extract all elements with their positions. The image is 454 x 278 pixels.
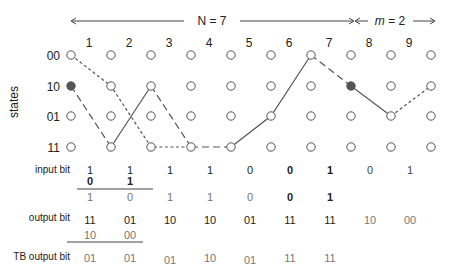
tb-output-bit: 01 — [84, 252, 96, 264]
decoded-bit: 1 — [167, 191, 173, 203]
column-number: 3 — [166, 36, 173, 50]
input-bit-label: input bit — [35, 164, 70, 175]
output-bit: 01 — [124, 214, 136, 226]
output-bit: 11 — [324, 214, 335, 226]
trellis-node — [347, 112, 355, 120]
input-bit: 0 — [367, 164, 373, 176]
trellis-node — [67, 112, 75, 120]
trellis-node-filled — [347, 82, 355, 90]
output-bit: 01 — [244, 214, 256, 226]
column-number: 2 — [126, 36, 133, 50]
trellis-node — [347, 51, 355, 59]
n-label: N = 7 — [197, 14, 226, 28]
tb-output-bit: 01 — [244, 254, 256, 266]
trellis-node — [187, 82, 195, 90]
trellis-node — [307, 82, 315, 90]
input-bit: 1 — [167, 164, 173, 176]
tb-output-bit: 01 — [124, 252, 136, 264]
trellis-node — [387, 51, 395, 59]
trellis-node — [107, 82, 115, 90]
trellis-node — [187, 51, 195, 59]
trellis-node — [307, 112, 315, 120]
column-number: 7 — [326, 36, 333, 50]
tb-output-bit: 11 — [324, 252, 335, 264]
output-bit: 11 — [284, 214, 295, 226]
input-bit: 0 — [287, 164, 293, 176]
trellis-node — [227, 51, 235, 59]
output-bit-extra: 00 — [124, 229, 136, 241]
trellis-node — [427, 112, 435, 120]
input-bit: 1 — [327, 164, 333, 176]
trellis-node — [307, 51, 315, 59]
trellis-node — [387, 143, 395, 151]
decoded-bit: 0 — [247, 191, 253, 203]
decoded-bit: 0 — [127, 191, 133, 203]
column-number: 5 — [246, 36, 253, 50]
trellis-node — [267, 143, 275, 151]
trellis-node — [107, 112, 115, 120]
trellis-node — [187, 143, 195, 151]
trellis-node — [67, 143, 75, 151]
states-axis-label: states — [7, 86, 21, 118]
output-bit: 10 — [204, 214, 216, 226]
input-bit: 0 — [247, 164, 253, 176]
decoded-bit: 0 — [287, 191, 293, 203]
tb-output-bit: 01 — [164, 254, 176, 266]
trellis-node — [347, 143, 355, 151]
trellis-node — [387, 112, 395, 120]
output-bit-label: output bit — [29, 212, 70, 223]
input-bit-extra: 0 — [87, 175, 93, 187]
trellis-node — [427, 51, 435, 59]
trellis-node — [267, 51, 275, 59]
tb-output-bit: 10 — [204, 252, 216, 264]
output-bit: 11 — [84, 214, 95, 226]
input-bit: 1 — [207, 164, 213, 176]
trellis-node — [147, 51, 155, 59]
output-bit: 00 — [404, 214, 416, 226]
trellis-node — [307, 143, 315, 151]
column-number: 4 — [206, 36, 213, 50]
column-number: 9 — [406, 36, 413, 50]
tb-output-bit: 11 — [284, 252, 295, 264]
trellis-node — [427, 143, 435, 151]
decoded-bit: 1 — [87, 191, 93, 203]
trellis-node — [187, 112, 195, 120]
trellis-node — [227, 112, 235, 120]
state-label: 01 — [47, 110, 60, 124]
column-number: 1 — [86, 36, 93, 50]
state-label: 00 — [47, 49, 60, 63]
trellis-node — [227, 82, 235, 90]
input-bit: 1 — [407, 164, 413, 176]
tb-output-bit-label: TB output bit — [13, 251, 70, 262]
trellis-node — [147, 143, 155, 151]
decoded-bit: 1 — [207, 191, 213, 203]
column-number: 8 — [366, 36, 373, 50]
column-number: 6 — [286, 36, 293, 50]
trellis-node — [107, 143, 115, 151]
trellis-node — [147, 112, 155, 120]
trellis-node — [267, 82, 275, 90]
trellis-node — [427, 82, 435, 90]
trellis-node-filled — [67, 82, 75, 90]
trellis-node — [67, 51, 75, 59]
trellis-node — [147, 82, 155, 90]
trellis-diagram — [0, 0, 454, 278]
input-bit-extra: 1 — [127, 175, 133, 187]
trellis-node — [227, 143, 235, 151]
state-label: 11 — [48, 141, 60, 155]
trellis-node — [267, 112, 275, 120]
trellis-node — [387, 82, 395, 90]
trellis-node — [107, 51, 115, 59]
output-bit: 10 — [164, 214, 176, 226]
m-label: m = 2 — [375, 14, 405, 28]
output-bit-extra: 10 — [84, 229, 96, 241]
decoded-bit: 1 — [327, 191, 333, 203]
output-bit: 10 — [364, 214, 376, 226]
state-label: 10 — [47, 80, 60, 94]
